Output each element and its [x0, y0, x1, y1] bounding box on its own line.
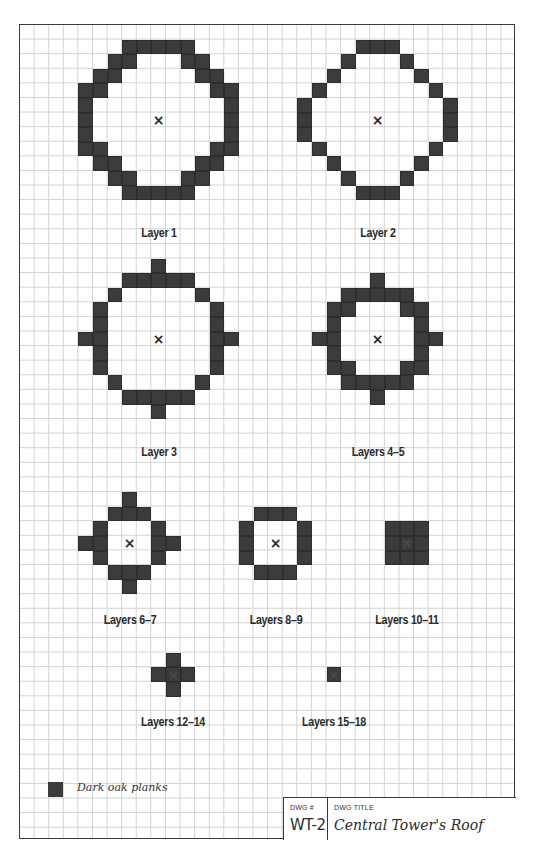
dark-oak-block [122, 273, 137, 288]
dark-oak-block [254, 565, 269, 580]
dark-oak-block [151, 186, 166, 201]
dark-oak-block [414, 521, 429, 536]
center-x-icon: × [371, 113, 385, 127]
dark-oak-block [400, 375, 415, 390]
dark-oak-block [385, 375, 400, 390]
dark-oak-block [78, 83, 93, 98]
dark-oak-block [195, 288, 210, 303]
dark-oak-block [341, 171, 356, 186]
dark-oak-block [297, 551, 312, 566]
dark-oak-block [166, 186, 181, 201]
dark-oak-block [78, 332, 93, 347]
dark-oak-block [224, 98, 239, 113]
dark-oak-block [108, 288, 123, 303]
layer-label: Layers 15–18 [295, 714, 373, 729]
dark-oak-block [385, 288, 400, 303]
dark-oak-block [385, 536, 400, 551]
layer-label-text: Layers 6–7 [103, 612, 156, 627]
dwg-number-heading: DWG # [290, 804, 314, 811]
dark-oak-block [181, 273, 196, 288]
dark-oak-block [195, 69, 210, 84]
dark-oak-block [137, 390, 152, 405]
title-block: DWG # WT-2 DWG TITLE Central Tower's Roo… [283, 797, 516, 840]
dark-oak-block [297, 98, 312, 113]
dark-oak-block [108, 171, 123, 186]
dwg-number-value: WT-2 [290, 816, 326, 834]
layer-label-text: Layer 1 [141, 225, 177, 240]
dwg-title-cell: DWG TITLE Central Tower's Roof [328, 798, 516, 840]
center-x-icon: × [166, 668, 180, 682]
dark-oak-block [78, 113, 93, 128]
dark-oak-block [137, 273, 152, 288]
dark-oak-block [312, 332, 327, 347]
dark-oak-block [283, 507, 298, 522]
dark-oak-block [181, 171, 196, 186]
dark-oak-block [370, 288, 385, 303]
dark-oak-block [137, 507, 152, 522]
dark-oak-block [341, 54, 356, 69]
dark-oak-block [122, 186, 137, 201]
layer-label-text: Layers 4–5 [351, 444, 404, 459]
dark-oak-block [224, 113, 239, 128]
dark-oak-block [93, 69, 108, 84]
dark-oak-block [356, 40, 371, 55]
dark-oak-block [443, 98, 458, 113]
dark-oak-block [239, 536, 254, 551]
dark-oak-block [370, 375, 385, 390]
dark-oak-block [181, 186, 196, 201]
dark-oak-block [443, 127, 458, 142]
dark-oak-block [151, 40, 166, 55]
dark-oak-block [224, 127, 239, 142]
dark-oak-block [414, 536, 429, 551]
dark-oak-block [122, 171, 137, 186]
dark-oak-block [414, 361, 429, 376]
dark-oak-block [210, 361, 225, 376]
layer-label: Layer 1 [137, 225, 180, 240]
dark-oak-block [137, 40, 152, 55]
dark-oak-block [297, 536, 312, 551]
dark-oak-block [356, 186, 371, 201]
dark-oak-block [327, 361, 342, 376]
dwg-title-value: Central Tower's Roof [334, 817, 483, 833]
dark-oak-block [108, 69, 123, 84]
dark-oak-block [429, 142, 444, 157]
dark-oak-block [166, 273, 181, 288]
dark-oak-block [400, 302, 415, 317]
dark-oak-block [414, 69, 429, 84]
dark-oak-block [122, 565, 137, 580]
legend-label: Dark oak planks [77, 781, 168, 794]
center-x-icon: × [400, 536, 414, 550]
dark-oak-block [195, 54, 210, 69]
dark-oak-block [93, 536, 108, 551]
dark-oak-block [78, 536, 93, 551]
layer-label-text: Layers 12–14 [141, 714, 205, 729]
dark-oak-block [151, 405, 166, 420]
layer-label-text: Layers 8–9 [249, 612, 302, 627]
dark-oak-block [122, 507, 137, 522]
dark-oak-block [166, 536, 181, 551]
dark-oak-block [414, 156, 429, 171]
dark-oak-block [385, 521, 400, 536]
dark-oak-block [151, 551, 166, 566]
layer-label-text: Layers 10–11 [375, 612, 438, 627]
dark-oak-block [108, 565, 123, 580]
dark-oak-block [195, 171, 210, 186]
dark-oak-block [414, 551, 429, 566]
dark-oak-block [224, 83, 239, 98]
dark-oak-block [78, 127, 93, 142]
dark-oak-block [414, 302, 429, 317]
dark-oak-block [341, 361, 356, 376]
dark-oak-block [341, 288, 356, 303]
dark-oak-block [400, 288, 415, 303]
dark-oak-block [414, 332, 429, 347]
dark-oak-block [181, 390, 196, 405]
dark-oak-block [312, 142, 327, 157]
dark-oak-block [400, 54, 415, 69]
dark-oak-block [108, 375, 123, 390]
dark-oak-block [385, 551, 400, 566]
dark-oak-block [297, 521, 312, 536]
layer-label: Layers 10–11 [368, 612, 445, 627]
dark-oak-block [385, 186, 400, 201]
dark-oak-block [327, 69, 342, 84]
dark-oak-block [122, 580, 137, 595]
